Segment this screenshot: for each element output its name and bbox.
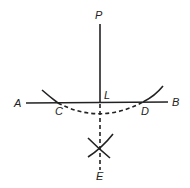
label-d: D — [141, 105, 149, 117]
label-e: E — [96, 170, 104, 182]
label-a: A — [13, 97, 21, 109]
label-l: L — [104, 89, 110, 101]
diagram-svg: P A B L C D E — [0, 0, 190, 188]
label-b: B — [172, 96, 179, 108]
label-c: C — [55, 105, 63, 117]
arc-left-solid — [42, 90, 58, 103]
arc-right-solid — [143, 86, 163, 102]
label-p: P — [95, 9, 103, 21]
line-ab — [26, 102, 168, 103]
geometry-diagram: P A B L C D E — [0, 0, 190, 188]
